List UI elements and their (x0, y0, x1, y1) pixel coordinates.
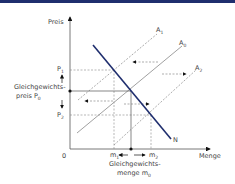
p2-label: P2 (57, 111, 64, 120)
x-axis-label: Menge (199, 152, 221, 160)
equilibrium-qty-dot (129, 147, 132, 150)
equilibrium-price-dot (68, 89, 71, 92)
equilibrium-price-label-2: preis P0 (16, 92, 41, 101)
supply-a2-label: A2 (195, 64, 202, 73)
supply-demand-diagram: Preis Menge 0 N A0 A1 A2 P1 P2 Gleichgew… (0, 0, 235, 184)
y-axis-label: Preis (48, 18, 64, 26)
p1-label: P1 (57, 65, 64, 74)
equilibrium-price-label-1: Gleichgewichts- (14, 83, 66, 91)
demand-label: N (173, 136, 178, 144)
supply-a1-label: A1 (156, 26, 163, 35)
m1-label: m1 (110, 151, 119, 160)
equilibrium-qty-label-1: Gleichgewichts- (109, 160, 161, 168)
supply-curve-a2 (114, 70, 196, 145)
demand-curve-n (93, 45, 171, 139)
origin-label: 0 (62, 152, 66, 160)
m2-label: m2 (149, 151, 158, 160)
supply-curve-a1 (78, 34, 157, 100)
equilibrium-qty-label-2: menge m0 (117, 169, 151, 178)
supply-a0-label: A0 (179, 39, 186, 48)
